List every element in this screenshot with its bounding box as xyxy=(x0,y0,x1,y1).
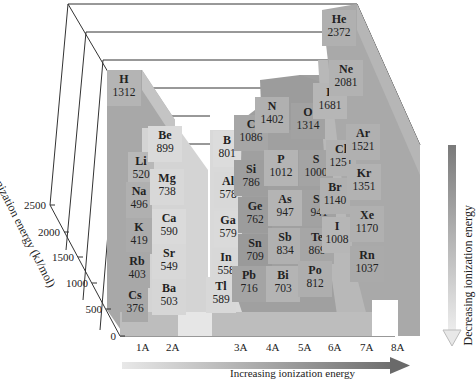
tile-As: As947 xyxy=(268,190,302,226)
tile-Ne: Ne2081 xyxy=(329,60,363,96)
tile-Sb: Sb834 xyxy=(268,228,302,264)
tile-Ar: Ar1521 xyxy=(346,124,380,160)
group-8A: 8A xyxy=(391,341,404,353)
tile-Cs: Cs376 xyxy=(122,286,148,322)
tile-Xe: Xe1170 xyxy=(350,206,384,242)
group-6A: 6A xyxy=(328,341,341,353)
tile-Be: Be899 xyxy=(148,126,182,162)
tile-Na: Na496 xyxy=(126,182,152,218)
tile-Sn: Sn709 xyxy=(238,234,272,270)
tile-Rb: Rb403 xyxy=(124,252,150,288)
tile-Po: Po812 xyxy=(298,261,332,297)
tile-Sr: Sr549 xyxy=(152,244,186,280)
tile-Ba: Ba503 xyxy=(152,279,186,315)
tile-Si: Si786 xyxy=(234,160,268,196)
tile-I: I1008 xyxy=(322,217,352,253)
increasing-ionization-label: Increasing ionization energy xyxy=(230,367,355,379)
tile-Mg: Mg738 xyxy=(150,169,184,205)
tile-Ge: Ge762 xyxy=(238,197,272,233)
tile-Bi: Bi703 xyxy=(266,266,300,302)
tile-Kr: Kr1351 xyxy=(347,164,381,200)
tile-He: He2372 xyxy=(322,10,356,46)
tile-Br: Br1140 xyxy=(320,178,350,214)
tile-Ca: Ca590 xyxy=(152,209,186,245)
group-7A: 7A xyxy=(360,341,373,353)
decreasing-ionization-label: Decreasing ionization energy xyxy=(461,146,476,346)
group-3A: 3A xyxy=(234,341,247,353)
ytick-0: 0 xyxy=(82,330,116,342)
tile-N: N1402 xyxy=(255,97,289,133)
tile-Pb: Pb716 xyxy=(232,266,266,302)
group-4A: 4A xyxy=(266,341,279,353)
group-1A: 1A xyxy=(136,341,149,353)
decreasing-arrow-icon xyxy=(443,145,461,346)
group-5A: 5A xyxy=(298,341,311,353)
tile-Rn: Rn1037 xyxy=(350,246,384,282)
group-2A: 2A xyxy=(166,341,179,353)
tile-H: H1312 xyxy=(107,70,141,106)
tile-P: P1012 xyxy=(264,150,298,186)
tile-K: K419 xyxy=(126,218,152,254)
